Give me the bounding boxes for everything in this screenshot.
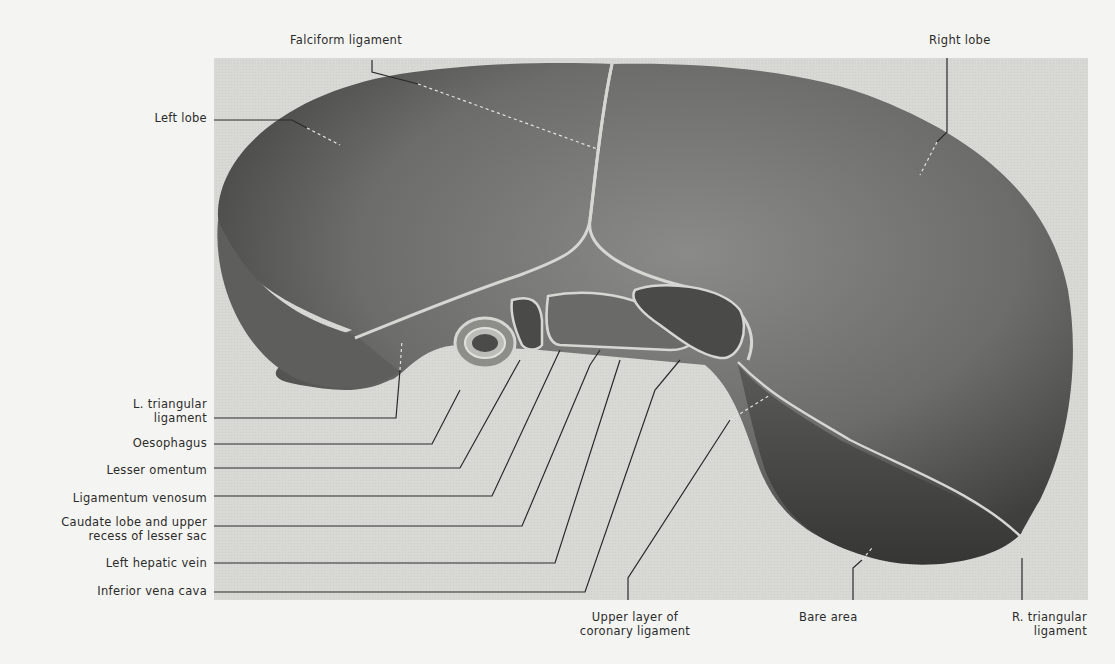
label-l-triangular-ligament: L. triangular ligament bbox=[133, 397, 207, 425]
label-oesophagus: Oesophagus bbox=[133, 436, 207, 450]
label-lesser-omentum: Lesser omentum bbox=[106, 463, 207, 477]
label-upper-layer-coronary-ligament: Upper layer of coronary ligament bbox=[560, 610, 710, 638]
label-r-triangular-ligament: R. triangular ligament bbox=[1012, 610, 1087, 638]
label-right-lobe: Right lobe bbox=[929, 33, 991, 47]
label-caudate-lobe: Caudate lobe and upper recess of lesser … bbox=[61, 515, 207, 543]
label-left-hepatic-vein: Left hepatic vein bbox=[106, 556, 207, 570]
anatomical-figure: Falciform ligament Right lobe Left lobe … bbox=[0, 0, 1115, 664]
label-ligamentum-venosum: Ligamentum venosum bbox=[73, 491, 207, 505]
label-bare-area: Bare area bbox=[799, 610, 858, 624]
label-inferior-vena-cava: Inferior vena cava bbox=[97, 584, 207, 598]
label-falciform-ligament: Falciform ligament bbox=[290, 33, 402, 47]
label-left-lobe: Left lobe bbox=[154, 111, 207, 125]
